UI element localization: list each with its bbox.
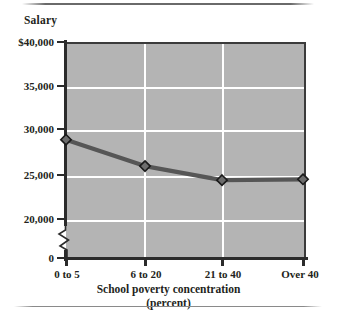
y-tick-label-0: 0	[49, 252, 55, 264]
x-tick-label-0-to-5: 0 to 5	[54, 268, 80, 280]
y-tick-30000	[57, 128, 66, 130]
gridline-30000	[66, 130, 304, 132]
gridline-category-21-to-40	[222, 44, 224, 258]
gridline-20000	[66, 220, 304, 222]
y-tick-label-35000: 35,000	[24, 80, 54, 92]
y-tick-20000	[57, 218, 66, 220]
y-tick-label-20000: 20,000	[24, 213, 54, 225]
y-tick-40000	[57, 41, 66, 43]
y-tick-label-30000: 30,000	[24, 123, 54, 135]
x-tick-label-6-to-20: 6 to 20	[130, 268, 161, 280]
x-tick-21-to-40	[221, 258, 224, 266]
gridline-25000	[66, 176, 304, 178]
y-tick-35000	[57, 85, 66, 87]
gridline-35000	[66, 87, 304, 89]
y-axis-tick-labels: $40,000 35,000 30,000 25,000 20,000 0	[0, 0, 54, 315]
axis-break-icon	[56, 222, 78, 262]
x-axis-title-line1: School poverty concentration	[0, 283, 337, 297]
y-tick-25000	[57, 174, 66, 176]
gridline-category-6-to-20	[144, 44, 146, 258]
plot-area	[66, 42, 306, 258]
x-axis-title-line2: (percent)	[0, 297, 337, 311]
bottom-horizontal-rule	[14, 306, 322, 307]
y-axis-line	[64, 40, 67, 226]
x-tick-0-to-5	[65, 258, 68, 266]
x-tick-label-21-to-40: 21 to 40	[205, 268, 242, 280]
x-axis-line	[64, 257, 308, 260]
x-tick-over-40	[302, 258, 305, 266]
y-tick-label-25000: 25,000	[24, 169, 54, 181]
y-tick-label-40000: $40,000	[18, 36, 54, 48]
x-tick-6-to-20	[144, 258, 147, 266]
salary-vs-poverty-line-chart: Salary $40,000 35,000 30,000 25,000 20,0…	[0, 0, 337, 315]
x-tick-label-over-40: Over 40	[281, 268, 318, 280]
